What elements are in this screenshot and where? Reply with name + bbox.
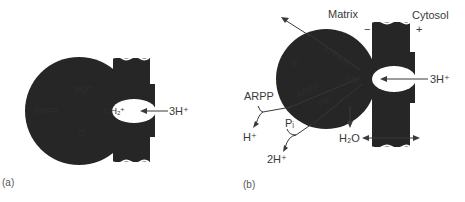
water-label: H₂O	[339, 132, 360, 144]
panel-b: ATPase S ARPP PPi Mg Matrix − Cytosol + …	[243, 8, 450, 190]
inner-label-channel: CH₂⁺	[104, 106, 126, 116]
double-arrow-left-head	[362, 135, 369, 141]
proton-label-b: 3H⁺	[430, 73, 450, 85]
cytosol-charge: +	[416, 23, 422, 35]
water-arrowhead	[347, 121, 353, 128]
pi-release-curve	[285, 129, 296, 148]
panel-a: ARPP Mg²⁺ CH₂⁺ O 3H⁺ (a)	[2, 57, 189, 189]
h-plus-label: H⁺	[243, 131, 257, 143]
two-h-plus-label: 2H⁺	[267, 153, 287, 165]
panel-label-a: (a)	[2, 177, 14, 188]
inner-label-bottom: O	[78, 128, 85, 138]
h-plus-arrowhead	[253, 121, 259, 128]
matrix-label: Matrix	[328, 8, 358, 20]
arpp-label: ARPP	[244, 90, 274, 102]
matrix-charge: −	[364, 23, 370, 35]
diagram-canvas: ARPP Mg²⁺ CH₂⁺ O 3H⁺ (a) ATPase S ARPP P…	[0, 0, 465, 202]
product-exit-arrow	[285, 20, 310, 36]
arpp-release-curve	[256, 106, 263, 124]
pi-line	[296, 124, 312, 135]
inner-label-center: Mg	[346, 74, 359, 84]
pi-label: Pᵢ	[285, 117, 294, 129]
inner-label-top: Mg²⁺	[74, 84, 95, 94]
double-arrow-right-head	[413, 135, 420, 141]
panel-label-b: (b)	[243, 179, 255, 190]
inner-label-left-b: S	[292, 58, 298, 68]
proton-label-a: 3H⁺	[169, 105, 189, 117]
cytosol-label: Cytosol	[412, 9, 449, 21]
inner-label-left: ARPP	[34, 106, 59, 116]
